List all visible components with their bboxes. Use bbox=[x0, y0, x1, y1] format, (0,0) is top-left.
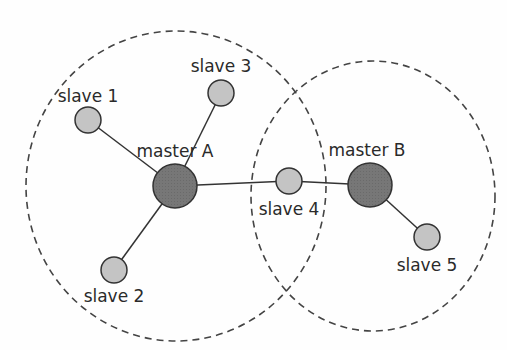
master-circle-icon bbox=[153, 164, 197, 208]
slave-circle-icon bbox=[75, 107, 101, 133]
slave-3-label: slave 3 bbox=[191, 56, 252, 76]
network-diagram: master Amaster Bslave 1slave 2slave 3sla… bbox=[0, 0, 507, 350]
master-circle-icon bbox=[348, 163, 392, 207]
nodes: master Amaster Bslave 1slave 2slave 3sla… bbox=[58, 56, 458, 306]
slave-1-label: slave 1 bbox=[58, 86, 119, 106]
slave-1-node: slave 1 bbox=[58, 86, 119, 133]
master-a-label: master A bbox=[137, 141, 214, 161]
slave-5-node: slave 5 bbox=[397, 224, 458, 275]
slave-4-node: slave 4 bbox=[259, 168, 320, 219]
master-b-label: master B bbox=[328, 140, 405, 160]
slave-2-label: slave 2 bbox=[84, 286, 145, 306]
slave-4-label: slave 4 bbox=[259, 199, 320, 219]
slave-circle-icon bbox=[414, 224, 440, 250]
slave-2-node: slave 2 bbox=[84, 257, 145, 306]
slave-circle-icon bbox=[276, 168, 302, 194]
slave-circle-icon bbox=[101, 257, 127, 283]
slave-5-label: slave 5 bbox=[397, 255, 458, 275]
slave-3-node: slave 3 bbox=[191, 56, 252, 106]
master-b-node: master B bbox=[328, 140, 405, 207]
master-a-node: master A bbox=[137, 141, 214, 208]
slave-circle-icon bbox=[208, 80, 234, 106]
